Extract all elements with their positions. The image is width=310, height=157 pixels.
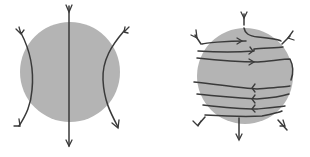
top-field-stub xyxy=(241,12,247,25)
diagram-canvas xyxy=(0,0,310,157)
right-panel xyxy=(191,12,294,140)
bottom-left-field-stub xyxy=(193,117,205,126)
diagram-figure xyxy=(0,0,310,157)
top-right-field-stub xyxy=(282,31,294,44)
top-left-field-stub xyxy=(191,30,201,44)
left-panel xyxy=(14,5,129,146)
bottom-right-field-stub xyxy=(278,120,287,130)
left-sphere xyxy=(20,22,120,122)
